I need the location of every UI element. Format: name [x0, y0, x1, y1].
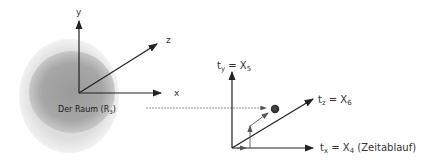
event-point [271, 105, 279, 113]
tz-idx: 6 [347, 99, 351, 107]
diagram-canvas: y x z Der Raum (R3) ty = X5 tz = X6 tx =… [0, 0, 422, 165]
z-axis-label: z [166, 36, 171, 45]
diagram-svg [0, 0, 422, 165]
tz-axis-label: tz = X6 [318, 95, 352, 105]
tx-axis-label: tx = X4 (Zeitablauf) [320, 143, 416, 153]
space-region-label-close: ) [113, 105, 116, 114]
y-axis-label: y [76, 8, 81, 17]
trajectory-step-z [250, 113, 268, 126]
space-region [19, 39, 119, 153]
tx-suffix: (Zeitablauf) [354, 142, 416, 153]
ty-axis-label: ty = X5 [217, 61, 251, 71]
space-inner-core [29, 51, 115, 133]
ty-eq: = X [225, 60, 247, 71]
space-region-label-text: Der Raum (R [58, 105, 109, 114]
space-region-label: Der Raum (R3) [58, 106, 116, 114]
ty-idx: 5 [247, 65, 251, 73]
x-axis-label: x [174, 89, 179, 98]
tx-eq: = X [328, 142, 350, 153]
tz-eq: = X [326, 94, 348, 105]
